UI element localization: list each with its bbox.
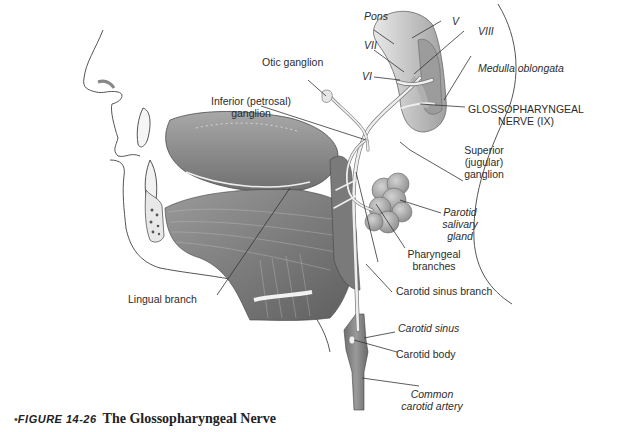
- label-lingual-branch: Lingual branch: [128, 293, 197, 305]
- label-pharyngeal-line1: Pharyngeal: [404, 248, 464, 260]
- label-superior-ganglion: Superior (jugular) ganglion: [456, 144, 512, 180]
- caption-title: The Glossopharyngeal Nerve: [103, 411, 276, 426]
- label-pharyngeal-branches: Pharyngeal branches: [404, 248, 464, 272]
- label-carotid-sinus-branch: Carotid sinus branch: [396, 285, 492, 297]
- nostril-shading: [98, 81, 114, 88]
- label-cranial-nerve-viii: VIII: [478, 25, 494, 37]
- label-pons: Pons: [364, 10, 388, 22]
- label-otic-ganglion: Otic ganglion: [262, 56, 323, 68]
- figure-stage: Pons V VII VIII VI Medulla oblongata Oti…: [0, 0, 630, 432]
- label-common-carotid-line2: carotid artery: [394, 400, 470, 412]
- label-superior-line2: (jugular): [456, 156, 512, 168]
- label-glossopharyngeal-nerve: GLOSSOPHARYNGEAL NERVE (IX): [464, 103, 588, 127]
- label-superior-line1: Superior: [456, 144, 512, 156]
- label-carotid-sinus: Carotid sinus: [398, 322, 459, 334]
- label-medulla-oblongata: Medulla oblongata: [478, 62, 564, 74]
- label-carotid-body: Carotid body: [396, 348, 456, 360]
- otic-ganglion-shape: [322, 90, 332, 103]
- label-glossopharyngeal-line1: GLOSSOPHARYNGEAL: [464, 103, 588, 115]
- parotid-gland: [365, 173, 412, 233]
- label-parotid-gland: Parotid salivary gland: [434, 206, 486, 242]
- label-cranial-nerve-v: V: [452, 15, 459, 27]
- label-glossopharyngeal-line2: NERVE (IX): [464, 115, 588, 127]
- label-common-carotid-line1: Common: [394, 388, 470, 400]
- label-inferior-ganglion: Inferior (petrosal) ganglion: [196, 95, 306, 119]
- label-cranial-nerve-vii: VII: [364, 39, 377, 51]
- label-parotid-line3: gland: [434, 230, 486, 242]
- label-pharyngeal-line2: branches: [404, 260, 464, 272]
- figure-caption: •FIGURE 14-26The Glossopharyngeal Nerve: [14, 409, 276, 427]
- label-common-carotid-artery: Common carotid artery: [394, 388, 470, 412]
- label-parotid-line1: Parotid: [434, 206, 486, 218]
- label-inferior-ganglion-line1: Inferior (petrosal): [196, 95, 306, 107]
- label-inferior-ganglion-line2: ganglion: [196, 107, 306, 119]
- label-superior-line3: ganglion: [456, 168, 512, 180]
- jaw-bone: [145, 190, 164, 242]
- label-cranial-nerve-vi: VI: [362, 70, 372, 82]
- label-parotid-line2: salivary: [434, 218, 486, 230]
- caption-figure-number: FIGURE 14-26: [18, 413, 97, 425]
